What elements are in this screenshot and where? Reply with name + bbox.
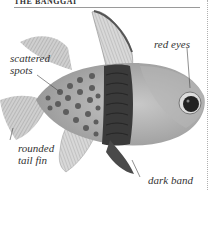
- label-scattered-spots: scattered spots: [10, 52, 50, 76]
- label-line: tail fin: [18, 154, 54, 166]
- label-line: spots: [10, 64, 50, 76]
- label-line: scattered: [10, 52, 50, 64]
- label-dark-band: dark band: [148, 174, 193, 186]
- label-line: red eyes: [154, 38, 190, 50]
- label-line: dark band: [148, 174, 193, 186]
- label-line: rounded: [18, 142, 54, 154]
- label-red-eyes: red eyes: [154, 38, 190, 50]
- label-rounded-tail-fin: rounded tail fin: [18, 142, 54, 166]
